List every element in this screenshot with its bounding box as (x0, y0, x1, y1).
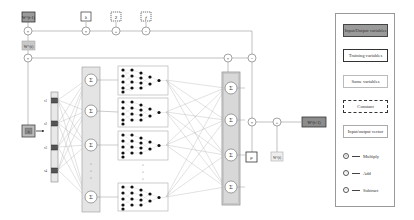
multiply-icon: × (343, 153, 349, 159)
w-prev-label: W^(t-1) (22, 15, 35, 20)
sigma-symbol: Σ (89, 77, 93, 83)
input-node (52, 121, 58, 126)
subtract-icon: − (343, 187, 349, 193)
legend-io-variables: Input/Output variables (343, 24, 388, 37)
legend-constant: Constant (343, 100, 388, 113)
w-curr-label: W^(t) (273, 156, 282, 160)
legend-add: + Add (343, 169, 371, 177)
sigma-symbol: Σ (89, 194, 93, 200)
input-node (52, 145, 58, 150)
subnetwork (118, 66, 168, 95)
add-icon: + (343, 170, 349, 176)
input-node (52, 168, 58, 173)
sigma-symbol: Σ (89, 108, 93, 114)
legend-multiply: × Multiply (343, 152, 379, 160)
w-curr-label: W^(t) (24, 44, 34, 49)
legend-same-variables: Same variables (343, 75, 388, 88)
input-node-label: x1 (44, 99, 48, 103)
sigma-symbol: Σ (229, 117, 233, 123)
output-label: W^(t+1) (308, 121, 322, 125)
subnetwork (118, 131, 168, 160)
output-connections (166, 80, 225, 197)
input-node (52, 98, 58, 103)
subnetworks (118, 66, 168, 211)
sigma-symbol: Σ (229, 184, 233, 190)
sigma-symbol: Σ (229, 85, 233, 91)
legend: Input/Output variables Training variable… (335, 13, 395, 207)
x-label: x (28, 130, 30, 134)
sigma-symbol: Σ (229, 152, 233, 158)
legend-training-variables: Training variables (343, 49, 388, 62)
subnetwork (118, 98, 168, 127)
subnetwork (118, 183, 168, 211)
input-node-label: x3 (44, 146, 48, 150)
input-node-label: x2 (44, 122, 48, 126)
legend-io-vector: Input/output vector (343, 125, 388, 138)
legend-subtract: − Subtract (343, 186, 378, 194)
input-node-label: x4 (44, 169, 48, 173)
sigma-symbol: Σ (89, 142, 93, 148)
